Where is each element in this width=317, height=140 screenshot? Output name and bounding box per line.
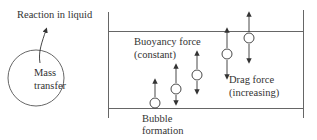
- transfer-label: transfer: [34, 80, 66, 92]
- drag-increasing-label: (increasing): [229, 87, 279, 99]
- mass-label: Mass: [34, 67, 56, 79]
- bubble-5: [244, 14, 254, 61]
- bubble-1: [150, 81, 160, 108]
- mass-transfer-arrow-icon: [39, 30, 46, 63]
- buoyancy-constant-label: (constant): [134, 49, 176, 61]
- buoyancy-force-label: Buoyancy force: [134, 36, 201, 48]
- bubble-2: [171, 66, 181, 103]
- bubble-3: [192, 53, 202, 92]
- drag-force-label: Drag force: [229, 74, 274, 86]
- reaction-in-liquid-label: Reaction in liquid: [17, 9, 92, 21]
- formation-label: formation: [142, 125, 183, 137]
- bubble-4: [222, 30, 232, 77]
- bubble-label: Bubble: [142, 113, 172, 125]
- liquid-column: [108, 10, 304, 118]
- bubble-diagram: Reaction in liquid Mass transfer Buoyanc…: [0, 0, 317, 140]
